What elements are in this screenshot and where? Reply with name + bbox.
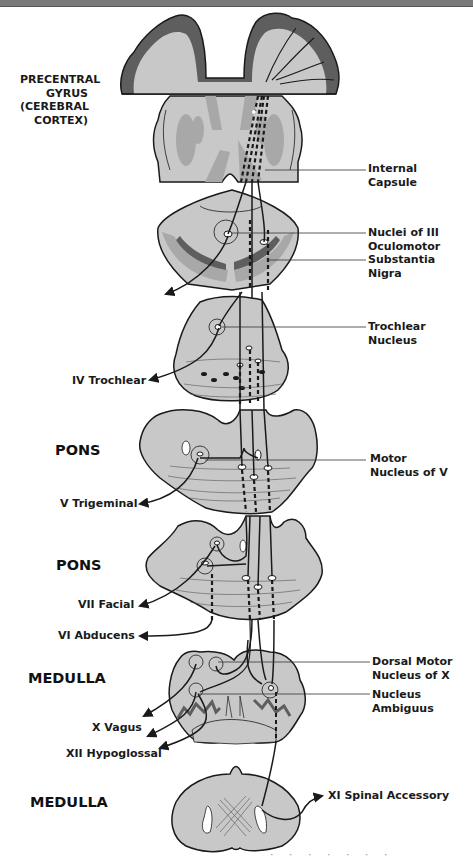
label-line: GYRUS <box>20 87 88 101</box>
label-iv-trochlear: IV Trochlear <box>72 374 146 388</box>
label-line: Nucleus of V <box>370 466 448 480</box>
label-pons-lower: PONS <box>56 557 102 573</box>
label-line: Ambiguus <box>372 702 434 716</box>
label-vi-abducens: VI Abducens <box>58 629 135 643</box>
cropped-caption-fragment: · · · · · · · <box>270 848 470 863</box>
label-nucleus-ambiguus: Nucleus Ambiguus <box>372 688 434 715</box>
label-line: (CEREBRAL <box>20 100 88 114</box>
label-line: Nuclei of III <box>368 226 440 240</box>
label-pons-upper: PONS <box>55 442 101 458</box>
label-line: Capsule <box>368 176 417 190</box>
label-xi-spinal-accessory: XI Spinal Accessory <box>328 789 449 803</box>
label-line: Nucleus <box>368 334 426 348</box>
label-substantia-nigra: Substantia Nigra <box>368 253 435 280</box>
label-v-trigeminal: V Trigeminal <box>60 497 137 511</box>
label-trochlear-nucleus: Trochlear Nucleus <box>368 320 426 347</box>
label-medulla-upper: MEDULLA <box>28 670 106 686</box>
label-line: Nucleus <box>372 688 434 702</box>
label-medulla-lower: MEDULLA <box>30 794 108 810</box>
corticobulbar-diagram <box>0 0 473 863</box>
label-nuclei-iii-oculomotor: Nuclei of III Oculomotor <box>368 226 440 253</box>
pons-lower-section <box>140 516 322 636</box>
label-line: Nigra <box>368 267 435 281</box>
pons-upper-section <box>140 410 318 514</box>
trochlear-level-section <box>150 292 288 410</box>
label-line: PRECENTRAL <box>20 73 88 87</box>
label-line: Trochlear <box>368 320 426 334</box>
label-line: Oculomotor <box>368 240 440 254</box>
medulla-lower-section <box>172 742 322 852</box>
label-line: Motor <box>370 452 448 466</box>
cerebral-cortex-section <box>121 13 339 94</box>
label-line: CORTEX) <box>20 114 88 128</box>
label-line: Dorsal Motor <box>372 655 452 669</box>
label-internal-capsule: Internal Capsule <box>368 162 417 189</box>
midbrain-section <box>158 182 299 300</box>
internal-capsule-section <box>154 96 303 182</box>
label-x-vagus: X Vagus <box>92 721 142 735</box>
label-line: Substantia <box>368 253 435 267</box>
label-precentral-gyrus: PRECENTRAL GYRUS (CEREBRAL CORTEX) <box>20 73 88 127</box>
label-vii-facial: VII Facial <box>78 598 134 612</box>
label-xii-hypoglossal: XII Hypoglossal <box>66 747 162 761</box>
label-dorsal-motor-nucleus-x: Dorsal Motor Nucleus of X <box>372 655 452 682</box>
label-motor-nucleus-v: Motor Nucleus of V <box>370 452 448 479</box>
label-line: Internal <box>368 162 417 176</box>
label-line: Nucleus of X <box>372 669 452 683</box>
medulla-upper-section <box>144 620 305 748</box>
